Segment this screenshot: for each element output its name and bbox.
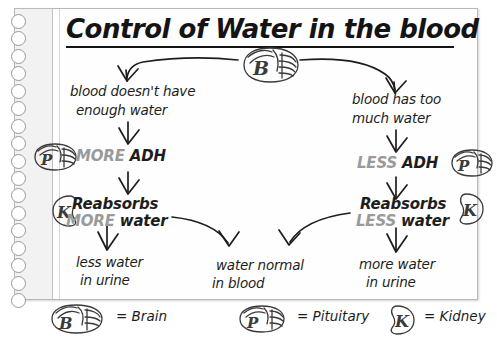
right-step1-line2: much water (352, 111, 430, 126)
kidney-icon-right: K (452, 192, 486, 226)
right-step3-line1: Reabsorbs (360, 196, 446, 213)
right-step3-emphasis: LESS (356, 212, 396, 230)
legend-kidney-icon: K (385, 304, 419, 336)
kidney-icon-letter: K (462, 201, 478, 220)
right-step4-line1: more water (359, 257, 435, 272)
left-step1-line1: blood doesn't have (70, 84, 195, 99)
outcome-line2: in blood (212, 276, 264, 291)
right-step3-line2: LESS water (356, 213, 449, 230)
left-step2-rest: ADH (130, 147, 166, 165)
screenshot-root: Control of Water in the blood (0, 0, 497, 337)
left-step3-rest: water (120, 212, 168, 230)
left-step3-line1: Reabsorbs (72, 196, 158, 213)
left-step3-line2: MORE water (66, 213, 167, 230)
left-step2-emphasis: MORE (76, 147, 125, 165)
right-step2-emphasis: LESS (357, 154, 397, 172)
legend-brain-icon: B (47, 304, 109, 334)
right-step2: LESS ADH (357, 155, 438, 172)
left-step2: MORE ADH (76, 148, 166, 165)
brain-icon: B (236, 45, 304, 85)
pituitary-icon-letter: P (457, 157, 470, 175)
legend-pituitary-icon: P (236, 304, 292, 334)
right-step4-line2: in urine (366, 275, 416, 290)
left-step1-line2: enough water (76, 103, 167, 118)
brain-icon-letter: B (252, 57, 269, 79)
legend-kidney-label: = Kidney (424, 308, 486, 324)
legend-brain-label: = Brain (116, 308, 167, 324)
legend-kidney-letter: K (394, 312, 410, 331)
legend-brain-letter: B (58, 314, 73, 333)
outcome-line1: water normal (216, 258, 304, 273)
right-step2-rest: ADH (402, 154, 438, 172)
pituitary-icon-right: P (447, 148, 493, 178)
pituitary-icon-letter: P (40, 151, 53, 169)
legend-pituitary-label: = Pituitary (297, 308, 369, 324)
left-step4-line2: in urine (80, 273, 130, 288)
right-step3-rest: water (401, 212, 449, 230)
left-step3-emphasis: MORE (66, 212, 115, 230)
legend: B = Brain P = Pituitary K = Kidney (0, 300, 497, 337)
pituitary-icon-left: P (30, 142, 80, 172)
left-step4-line1: less water (76, 255, 143, 270)
legend-pituitary-letter: P (246, 314, 259, 332)
right-step1-line1: blood has too (352, 92, 441, 107)
